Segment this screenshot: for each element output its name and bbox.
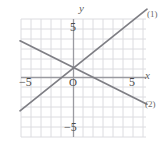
origin-label: O: [69, 77, 77, 88]
line-2-label: (2): [145, 100, 156, 109]
coordinate-plane-figure: y x 5 −5 5 −5 O (1) (2): [0, 0, 168, 154]
y-tick-label-minus5: −5: [64, 121, 77, 133]
line-1-label: (1): [147, 10, 158, 19]
y-axis-label: y: [79, 3, 84, 14]
x-tick-label-5: 5: [129, 76, 135, 88]
x-axis-label: x: [145, 70, 150, 81]
x-tick-label-minus5: −5: [19, 76, 32, 88]
y-tick-label-5: 5: [70, 21, 76, 33]
